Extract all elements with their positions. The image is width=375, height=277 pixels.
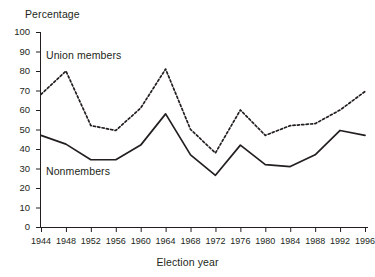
series-label-nonmembers: Nonmembers (46, 165, 110, 177)
x-tick-label: 1976 (230, 236, 250, 246)
y-tick-label: 0 (4, 222, 30, 232)
y-tick-label: 30 (4, 164, 30, 174)
x-tick-label: 1988 (305, 236, 325, 246)
x-tick-label: 1960 (131, 236, 151, 246)
y-tick-label: 60 (4, 105, 30, 115)
y-tick-label: 70 (4, 86, 30, 96)
x-tick-label: 1944 (31, 236, 51, 246)
axis-lines (41, 32, 369, 228)
series-line-union-members (41, 69, 365, 153)
x-tick-label: 1948 (56, 236, 76, 246)
data-series-group (41, 69, 365, 175)
y-tick-label: 100 (4, 27, 30, 37)
x-tick-label: 1980 (255, 236, 275, 246)
x-tick-label: 1984 (280, 236, 300, 246)
y-tick-label: 80 (4, 66, 30, 76)
y-tick-label: 40 (4, 144, 30, 154)
y-tick-label: 10 (4, 203, 30, 213)
x-tick-label: 1992 (330, 236, 350, 246)
x-tick-label: 1956 (106, 236, 126, 246)
x-tick-label: 1996 (355, 236, 375, 246)
line-chart: Percentage 1009080706050403020100 194419… (0, 0, 375, 277)
series-label-union-members: Union members (46, 49, 121, 61)
x-tick-label: 1952 (81, 236, 101, 246)
x-tick-label: 1964 (156, 236, 176, 246)
x-tick-label: 1972 (205, 236, 225, 246)
x-axis-title: Election year (0, 256, 375, 268)
y-tick-label: 90 (4, 47, 30, 57)
y-tick-label: 20 (4, 183, 30, 193)
y-tick-label: 50 (4, 125, 30, 135)
x-tick-label: 1968 (181, 236, 201, 246)
